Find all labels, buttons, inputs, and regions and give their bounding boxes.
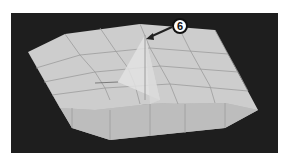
callout-badge: 6: [172, 18, 188, 34]
mesh-render: [0, 0, 289, 164]
